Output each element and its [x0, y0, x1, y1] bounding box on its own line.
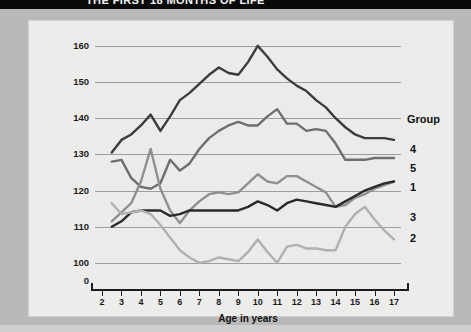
- y-axis-tick-label: 100: [45, 257, 89, 268]
- y-axis-tick-label: 110: [45, 221, 89, 232]
- legend-item-group-5: 5: [410, 162, 416, 174]
- y-axis-tick-label: 140: [45, 112, 89, 123]
- banner-bar: THE FIRST 18 MONTHS OF LIFE: [0, 0, 471, 9]
- page-background: Source: McCall et al. (1973). Adjusted B…: [0, 9, 471, 332]
- x-axis-end-cap: [91, 283, 93, 291]
- x-axis-tick: [394, 291, 395, 296]
- series-line-group-4: [112, 46, 394, 153]
- x-axis-tick: [219, 291, 220, 296]
- legend-item-group-4: 4: [410, 143, 416, 155]
- y-axis-tick-label: 150: [45, 76, 89, 87]
- x-axis-tick: [160, 291, 161, 296]
- x-axis-line: [91, 289, 409, 291]
- x-axis-tick: [355, 291, 356, 296]
- legend-title: Group: [407, 113, 440, 125]
- series-line-group-2: [112, 203, 394, 263]
- x-axis-tick: [102, 291, 103, 296]
- y-axis-tick-label: 130: [45, 148, 89, 159]
- legend-item-group-2: 2: [410, 232, 416, 244]
- x-axis-tick: [141, 291, 142, 296]
- x-axis-tick-label: 17: [383, 297, 405, 307]
- page-bottom-rule: [0, 325, 471, 332]
- y-axis-tick-label: 120: [45, 185, 89, 196]
- x-axis-tick: [199, 291, 200, 296]
- x-axis-tick: [277, 291, 278, 296]
- x-axis-tick: [258, 291, 259, 296]
- x-axis-tick: [180, 291, 181, 296]
- x-axis-tick: [297, 291, 298, 296]
- x-axis-title: Age in years: [95, 313, 401, 324]
- series-lines: [95, 35, 401, 281]
- x-axis-tick: [336, 291, 337, 296]
- x-axis-tick: [238, 291, 239, 296]
- legend-item-group-1: 1: [410, 181, 416, 193]
- figure-root: THE FIRST 18 MONTHS OF LIFE Source: McCa…: [0, 0, 471, 332]
- legend-item-group-3: 3: [410, 211, 416, 223]
- x-axis-tick: [375, 291, 376, 296]
- chart-figure: Adjusted Binet IQ Age in years 010011012…: [29, 21, 453, 316]
- y-axis-tick-label: 160: [45, 40, 89, 51]
- x-axis-tick: [121, 291, 122, 296]
- banner-headline: THE FIRST 18 MONTHS OF LIFE: [86, 0, 265, 6]
- x-axis-end-cap: [407, 283, 409, 291]
- x-axis-tick: [316, 291, 317, 296]
- y-axis-tick-label: 0: [45, 275, 89, 286]
